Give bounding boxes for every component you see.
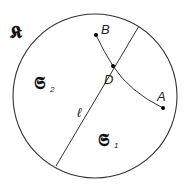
point-d — [111, 64, 115, 68]
label-d: D — [104, 72, 113, 87]
diagram-canvas: 𝕶 B D A ℓ 𝕾 2 𝕾 1 — [0, 0, 189, 187]
circle-boundary — [13, 14, 177, 178]
label-a: A — [156, 89, 166, 104]
region-s2-subscript: 2 — [49, 85, 55, 94]
point-a — [161, 106, 165, 110]
label-l: ℓ — [77, 105, 82, 120]
region-s2-symbol: 𝕾 — [34, 73, 46, 93]
point-b — [94, 33, 98, 37]
region-s1-subscript: 1 — [114, 141, 118, 150]
region-s1-symbol: 𝕾 — [98, 130, 110, 150]
label-b: B — [101, 22, 110, 37]
set-label-k: 𝕶 — [9, 22, 23, 42]
